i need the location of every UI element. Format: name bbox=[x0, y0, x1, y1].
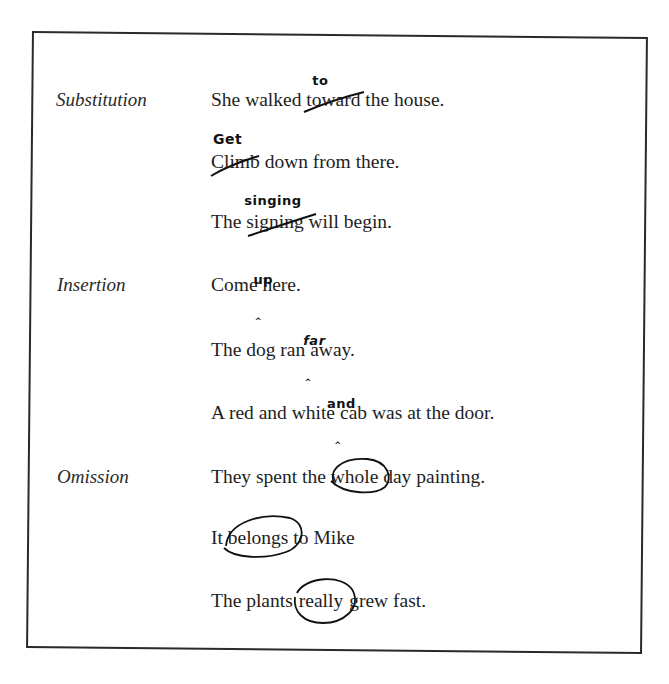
text-after: cab was at the door. bbox=[340, 402, 494, 423]
struck-word: towardto bbox=[306, 90, 360, 110]
handwritten-correction: to bbox=[312, 74, 328, 87]
text-after: day painting. bbox=[378, 466, 485, 487]
text-before: The bbox=[211, 211, 246, 232]
struck-word: signingsinging bbox=[246, 212, 303, 232]
caret-icon: ‸ bbox=[334, 433, 341, 443]
circled-word: whole bbox=[331, 467, 379, 487]
example-insertion-3: A red and whiteand‸cab was at the door. bbox=[211, 403, 494, 423]
example-omission-3: The plantsreallygrew fast. bbox=[211, 591, 426, 611]
section-label-omission: Omission bbox=[57, 467, 129, 486]
text-before: Come bbox=[211, 274, 258, 295]
text-after: will begin. bbox=[304, 211, 392, 232]
circled-word: really bbox=[293, 591, 349, 611]
example-substitution-1: She walked towardto the house. bbox=[211, 90, 444, 110]
text-after: down from there. bbox=[260, 151, 400, 172]
text-before: The dog ran bbox=[211, 339, 305, 360]
section-label-insertion: Insertion bbox=[57, 275, 126, 294]
example-insertion-2: The dog ranfar‸away. bbox=[211, 340, 355, 360]
caret-icon: ‸ bbox=[304, 370, 311, 380]
example-insertion-1: Comeup‸ here. bbox=[211, 275, 301, 295]
text-before: A red and white bbox=[211, 402, 335, 423]
example-substitution-2: ClimbGet down from there. bbox=[211, 152, 399, 172]
caret-icon: ‸ bbox=[255, 309, 262, 319]
handwritten-insertion: and bbox=[327, 397, 356, 410]
text-after: to Mike bbox=[288, 527, 354, 548]
handwritten-correction: singing bbox=[244, 194, 301, 207]
text-after: grew fast. bbox=[349, 590, 426, 611]
circled-word: belongs bbox=[228, 528, 289, 548]
struck-word: ClimbGet bbox=[211, 152, 260, 172]
text-after: the house. bbox=[360, 89, 444, 110]
text-before: It bbox=[211, 527, 228, 548]
handwritten-insertion: far bbox=[303, 334, 325, 347]
text-before: She walked bbox=[211, 89, 306, 110]
handwritten-insertion: up bbox=[254, 273, 274, 286]
example-substitution-3: The signingsinging will begin. bbox=[211, 212, 392, 232]
example-omission-2: It belongs to Mike bbox=[211, 528, 355, 548]
example-omission-1: They spent the whole day painting. bbox=[211, 467, 485, 487]
section-label-substitution: Substitution bbox=[56, 90, 147, 109]
handwritten-correction: Get bbox=[213, 132, 242, 146]
text-before: They spent the bbox=[211, 466, 331, 487]
text-before: The plants bbox=[211, 590, 293, 611]
